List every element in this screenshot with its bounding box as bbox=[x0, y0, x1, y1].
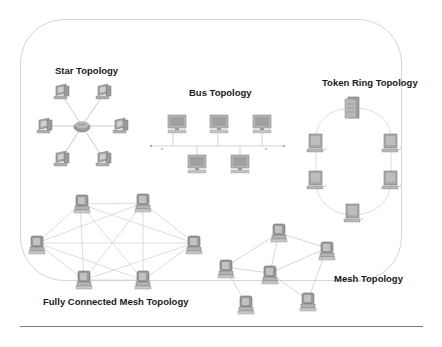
full-mesh-computer-icon bbox=[74, 195, 90, 213]
mesh-computer-icon bbox=[218, 260, 234, 278]
bus-computer-icon bbox=[188, 155, 206, 173]
bus-computer-icon bbox=[253, 115, 271, 133]
bus-computer-icon bbox=[168, 115, 186, 133]
full-mesh-computer-icon bbox=[135, 194, 151, 212]
mesh-computer-icon bbox=[262, 266, 278, 284]
star-computer-icon bbox=[37, 118, 52, 133]
ring-computer-icon bbox=[307, 171, 326, 189]
horizontal-rule bbox=[20, 326, 423, 327]
full-mesh-computer-icon bbox=[135, 271, 151, 289]
bus-terminator-icon bbox=[283, 145, 285, 147]
mesh-computer-icon bbox=[319, 242, 335, 260]
token-ring-loop bbox=[316, 108, 391, 215]
ring-computer-icon bbox=[307, 134, 326, 152]
star-computer-icon bbox=[54, 84, 69, 99]
star-hub-switch-icon bbox=[74, 122, 90, 133]
full-mesh-computer-icon bbox=[29, 236, 45, 254]
full-mesh-computer-icon bbox=[186, 236, 202, 254]
mesh-computer-icon bbox=[238, 296, 254, 314]
bus-computer-icon bbox=[231, 155, 249, 173]
full-mesh-links bbox=[37, 203, 194, 280]
star-computer-icon bbox=[96, 151, 111, 166]
ring-server-icon bbox=[345, 97, 359, 118]
star-computer-icon bbox=[113, 118, 128, 133]
ring-computer-icon bbox=[382, 134, 401, 152]
ring-computer-icon bbox=[344, 204, 363, 222]
bus-terminator-icon bbox=[150, 145, 152, 147]
full-mesh-computer-icon bbox=[76, 271, 92, 289]
bus-computer-icon bbox=[210, 115, 228, 133]
bus-topology bbox=[150, 132, 285, 158]
mesh-computer-icon bbox=[271, 224, 287, 242]
ring-computer-icon bbox=[382, 171, 401, 189]
topology-diagram bbox=[0, 0, 442, 347]
star-computer-icon bbox=[54, 151, 69, 166]
mesh-computer-icon bbox=[300, 293, 316, 311]
star-computer-icon bbox=[96, 84, 111, 99]
